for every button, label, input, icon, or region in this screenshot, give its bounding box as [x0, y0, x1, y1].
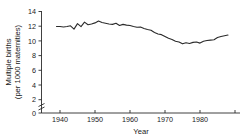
y-axis-group: 14 12 10 8 6 4 2 0 [28, 7, 45, 118]
y-tick-label-6: 6 [32, 66, 36, 75]
y-tick-label-0: 0 [32, 109, 36, 118]
x-axis-group: 1940 1950 1960 1970 1980 Year [42, 110, 241, 136]
y-tick-label-12: 12 [28, 22, 36, 31]
y-tick-label-8: 8 [32, 51, 36, 60]
multiple-births-line-chart: 14 12 10 8 6 4 2 0 Multiple births (per … [0, 0, 246, 138]
x-tick-label-1950: 1950 [87, 115, 103, 124]
x-tick-label-1940: 1940 [52, 115, 68, 124]
y-axis-title-line1: Multiple births [4, 38, 13, 85]
y-tick-label-4: 4 [32, 81, 36, 90]
x-tick-label-1980: 1980 [192, 115, 208, 124]
y-tick-label-2: 2 [32, 95, 36, 104]
y-axis-title-group: Multiple births (per 1000 maternities) [4, 24, 22, 99]
chart-figure: 14 12 10 8 6 4 2 0 Multiple births (per … [0, 0, 246, 138]
multiple-birth-rate-line [57, 21, 229, 44]
x-tick-label-1960: 1960 [122, 115, 138, 124]
y-tick-label-14: 14 [28, 7, 36, 16]
y-tick-label-10: 10 [28, 37, 36, 46]
x-tick-label-1970: 1970 [157, 115, 173, 124]
x-axis-title: Year [133, 127, 149, 136]
y-axis-title-line2: (per 1000 maternities) [13, 24, 22, 99]
